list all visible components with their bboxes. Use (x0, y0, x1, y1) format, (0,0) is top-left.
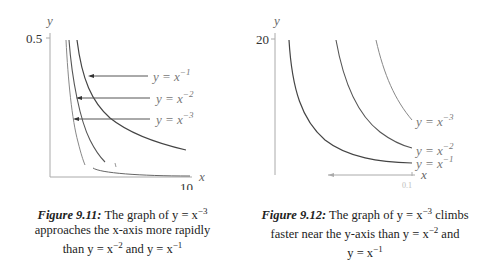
caption-text: than y = x (63, 242, 113, 256)
x-axis-label: x (198, 169, 205, 184)
curve-x-inv-3 (66, 40, 85, 165)
figure-9-11: y 0.5 x y = x−1 y = x−2 y = x−3 10 Figur… (0, 0, 240, 244)
caption-text: The graph of y = x (104, 208, 197, 222)
caption-sup: −3 (198, 206, 208, 216)
curve-x-inv-3 (376, 40, 412, 120)
caption-sup: −2 (429, 225, 439, 235)
chart-x-inverse-powers-large-x: y 0.5 x y = x−1 y = x−2 y = x−3 10 (0, 0, 240, 190)
caption-text: The graph of y = x (329, 208, 422, 222)
y-tick-label: 0.5 (26, 31, 42, 46)
y-axis-label: y (45, 13, 53, 28)
caption-text: faster near the y-axis than y = x (271, 227, 429, 241)
caption-text: and (438, 227, 459, 241)
arrowhead-icon (328, 173, 334, 177)
label-x-inv-3: y = x−3 (154, 110, 194, 127)
y-axis-label: y (272, 13, 280, 28)
curve-fragment (115, 163, 116, 167)
caption-figure-9-12: Figure 9.12: The graph of y = x−3 climbs… (260, 204, 470, 261)
figure-number: Figure 9.12: (261, 208, 326, 222)
y-tick-label: 20 (256, 32, 269, 47)
x-tick-label-faint: 0.1 (402, 181, 412, 190)
caption-text: y = x (347, 246, 373, 260)
arrowhead-icon (88, 74, 94, 78)
chart-x-inverse-powers-small-x: y 20 x y = x−3 y = x−2 y = x−1 0.1 (240, 0, 485, 190)
caption-sup: −2 (113, 240, 123, 250)
curve-x-inv-1 (289, 40, 412, 163)
curve-x-inv-2 (336, 40, 412, 148)
caption-sup: −1 (373, 244, 383, 254)
x-tick-label: 10 (180, 180, 193, 190)
figure-9-12: y 20 x y = x−3 y = x−2 y = x−1 0.1 Figur… (240, 0, 485, 244)
label-x-inv-1: y = x−1 (151, 67, 190, 84)
label-x-inv-1: y = x−1 (414, 154, 453, 171)
label-x-inv-3: y = x−3 (414, 112, 454, 129)
caption-sup: −3 (422, 206, 432, 216)
caption-text: climbs (432, 208, 468, 222)
figure-number: Figure 9.11: (38, 208, 102, 222)
label-x-inv-2: y = x−2 (154, 89, 194, 106)
caption-text: and y = x (123, 242, 173, 256)
caption-figure-9-11: Figure 9.11: The graph of y = x−3 approa… (20, 204, 225, 257)
caption-sup: −1 (173, 240, 183, 250)
caption-text: approaches the x-axis more rapidly (20, 223, 225, 238)
curve-x-inv-2 (69, 40, 105, 162)
curve-tail (93, 168, 190, 176)
